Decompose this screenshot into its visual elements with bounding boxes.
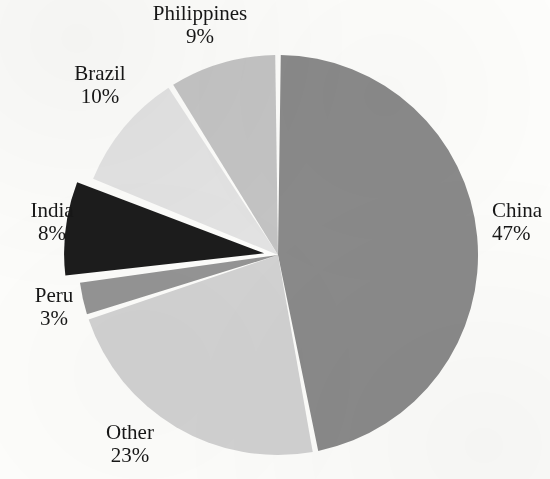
slice-label-other-value: 23% bbox=[62, 444, 198, 467]
pie-slice-group bbox=[64, 55, 478, 455]
slice-label-india-value: 8% bbox=[0, 222, 104, 245]
pie-chart: Philippines 9% Brazil 10% India 8% Peru … bbox=[0, 0, 550, 479]
slice-label-philippines-value: 9% bbox=[118, 25, 282, 48]
slice-label-india: India 8% bbox=[0, 199, 104, 244]
slice-label-india-name: India bbox=[0, 199, 104, 222]
slice-label-peru: Peru 3% bbox=[4, 284, 104, 329]
slice-label-other: Other 23% bbox=[62, 421, 198, 466]
slice-label-peru-value: 3% bbox=[4, 307, 104, 330]
slice-label-brazil-name: Brazil bbox=[38, 62, 162, 85]
slice-label-brazil-value: 10% bbox=[38, 85, 162, 108]
slice-label-china: China 47% bbox=[492, 199, 550, 244]
slice-label-other-name: Other bbox=[62, 421, 198, 444]
slice-label-china-value: 47% bbox=[492, 222, 550, 245]
slice-label-china-name: China bbox=[492, 199, 550, 222]
slice-label-brazil: Brazil 10% bbox=[38, 62, 162, 107]
slice-label-peru-name: Peru bbox=[4, 284, 104, 307]
pie-slice-china[interactable] bbox=[278, 55, 478, 451]
slice-label-philippines-name: Philippines bbox=[118, 2, 282, 25]
slice-label-philippines: Philippines 9% bbox=[118, 2, 282, 47]
